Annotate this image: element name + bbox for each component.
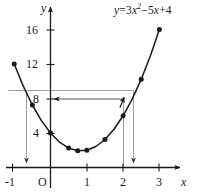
x-tick-label-1: 1 bbox=[84, 176, 90, 188]
y-axis-name: y bbox=[41, 2, 46, 14]
data-point bbox=[121, 113, 126, 118]
x-tick-label-3: 3 bbox=[156, 176, 162, 188]
origin-label: O bbox=[38, 176, 47, 188]
data-point bbox=[139, 77, 144, 82]
equation-coef-c: 4 bbox=[166, 4, 172, 16]
data-point bbox=[157, 27, 162, 32]
y-tick-label-12: 12 bbox=[26, 58, 38, 70]
x-axis-name: x bbox=[181, 176, 186, 188]
data-point bbox=[66, 146, 71, 151]
data-point bbox=[75, 148, 80, 153]
y-tick-label-8: 8 bbox=[33, 93, 39, 105]
x-tick-label-2: 2 bbox=[120, 176, 126, 188]
x-tick-label--1: -1 bbox=[5, 176, 15, 188]
y-tick-label-16: 16 bbox=[26, 24, 38, 36]
data-point bbox=[48, 131, 53, 136]
equation-minus: − bbox=[141, 4, 148, 16]
equation-equals: = bbox=[119, 4, 126, 16]
data-point bbox=[12, 62, 17, 67]
data-point bbox=[102, 137, 107, 142]
data-point bbox=[84, 148, 89, 153]
y-tick-label-4: 4 bbox=[33, 127, 39, 139]
equation-plus: + bbox=[159, 4, 166, 16]
equation-label: y=3x2−5x+4 bbox=[114, 3, 172, 16]
graph-figure: 16 12 8 4 -1 O 1 2 3 x y y=3x2−5x+4 bbox=[0, 0, 198, 196]
